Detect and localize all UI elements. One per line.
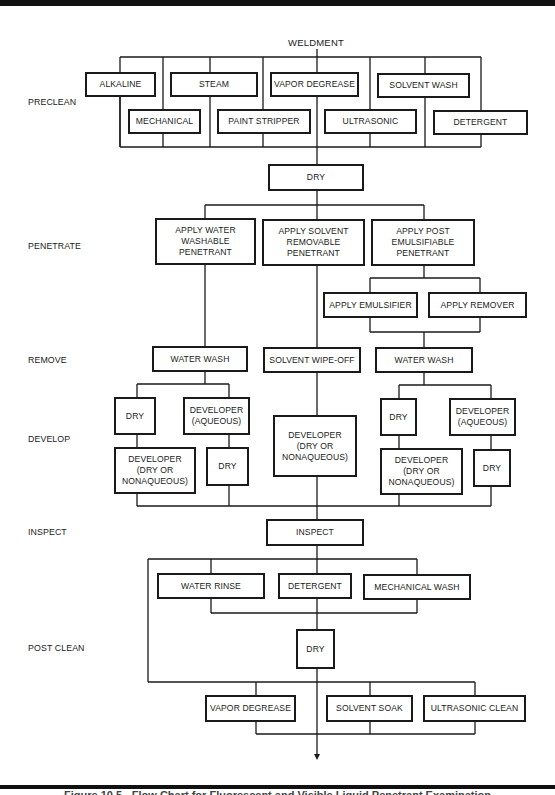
develop-right-developer-aqueous-box: DEVELOPER (AQUEOUS): [449, 398, 516, 436]
remove-water-wash-right-box: WATER WASH: [375, 347, 473, 373]
flowchart-canvas: PRECLEAN PENETRATE REMOVE DEVELOP INSPEC…: [0, 0, 555, 795]
stage-label-inspect: INSPECT: [28, 527, 67, 537]
develop-left-developer-dry-nonaqueous-box: DEVELOPER (DRY OR NONAQUEOUS): [114, 447, 196, 494]
remove-solvent-wipe-off-box: SOLVENT WIPE-OFF: [263, 347, 361, 373]
postclean-water-rinse-box: WATER RINSE: [157, 573, 265, 599]
start-node-weldment: WELDMENT: [288, 37, 344, 48]
preclean-steam-box: STEAM: [170, 72, 258, 97]
stage-label-post-clean: POST CLEAN: [28, 643, 85, 653]
postclean-dry-box: DRY: [296, 629, 335, 669]
develop-left-dry-1-box: DRY: [114, 397, 156, 435]
penetrant-solvent-removable-box: APPLY SOLVENT REMOVABLE PENETRANT: [262, 219, 365, 266]
postclean-vapor-degrease-box: VAPOR DEGREASE: [205, 695, 296, 722]
remove-water-wash-left-box: WATER WASH: [152, 346, 248, 372]
preclean-vapor-degrease-box: VAPOR DEGREASE: [270, 72, 359, 97]
postclean-ultrasonic-clean-box: ULTRASONIC CLEAN: [423, 695, 526, 722]
develop-right-dry-2-box: DRY: [473, 449, 511, 487]
stage-label-preclean: PRECLEAN: [28, 97, 76, 107]
develop-center-developer-dry-nonaqueous-box: DEVELOPER (DRY OR NONAQUEOUS): [273, 415, 357, 477]
postclean-detergent-box: DETERGENT: [278, 573, 352, 599]
penetrant-water-washable-box: APPLY WATER WASHABLE PENETRANT: [155, 218, 256, 265]
preclean-ultrasonic-box: ULTRASONIC: [324, 109, 417, 134]
develop-left-developer-aqueous-box: DEVELOPER (AQUEOUS): [183, 397, 250, 435]
preclean-solvent-wash-box: SOLVENT WASH: [377, 73, 470, 98]
figure-caption: Figure 10.5 - Flow Chart for Fluorescent…: [0, 789, 555, 795]
inspect-box: INSPECT: [266, 519, 364, 546]
preclean-detergent-box: DETERGENT: [433, 110, 528, 135]
develop-left-dry-2-box: DRY: [206, 447, 249, 486]
preclean-paint-stripper-box: PAINT STRIPPER: [217, 109, 311, 134]
postclean-solvent-soak-box: SOLVENT SOAK: [326, 695, 413, 722]
stage-label-remove: REMOVE: [28, 355, 67, 365]
preclean-alkaline-box: ALKALINE: [85, 72, 156, 97]
postclean-mechanical-wash-box: MECHANICAL WASH: [363, 574, 471, 600]
apply-remover-box: APPLY REMOVER: [428, 292, 527, 318]
preclean-mechanical-box: MECHANICAL: [128, 109, 201, 134]
stage-label-penetrate: PENETRATE: [28, 241, 81, 251]
end-arrow-icon: [314, 754, 320, 760]
stage-label-develop: DEVELOP: [28, 434, 70, 444]
develop-right-developer-dry-nonaqueous-box: DEVELOPER (DRY OR NONAQUEOUS): [380, 448, 463, 495]
penetrant-post-emulsifiable-box: APPLY POST EMULSIFIABLE PENETRANT: [371, 219, 475, 266]
apply-emulsifier-box: APPLY EMULSIFIER: [323, 292, 418, 318]
preclean-dry-box: DRY: [268, 164, 364, 191]
develop-right-dry-1-box: DRY: [380, 398, 417, 436]
